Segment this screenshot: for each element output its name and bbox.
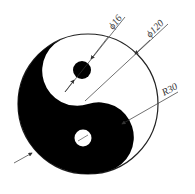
yin-yang-diagram: ϕ16 ϕ120 R30 xyxy=(0,0,195,194)
label-r30: R30 xyxy=(159,80,179,98)
label-phi120: ϕ120 xyxy=(144,17,166,39)
black-dot xyxy=(73,61,91,79)
label-phi16: ϕ16 xyxy=(106,12,124,31)
